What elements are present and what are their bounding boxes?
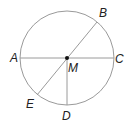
label-b: B [99,6,107,20]
label-c: C [115,52,124,66]
label-m: M [68,61,78,75]
center-point [65,56,69,60]
label-a: A [9,51,18,65]
label-d: D [62,109,71,123]
label-e: E [26,97,35,111]
circle-diagram: A B C D E M [0,0,128,129]
